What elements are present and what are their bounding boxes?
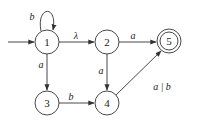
state-2: 2 — [95, 30, 119, 54]
edge-label-1-1: b — [30, 11, 35, 22]
svg-text:3: 3 — [44, 97, 50, 109]
svg-text:5: 5 — [166, 35, 172, 47]
svg-text:2: 2 — [104, 36, 110, 48]
automaton-diagram: b λ a a a b a | b 1 2 3 4 5 — [0, 0, 214, 124]
state-1: 1 — [35, 30, 59, 54]
edge-label-1-3: a — [39, 59, 44, 70]
edge-label-2-5: a — [131, 30, 136, 41]
svg-text:1: 1 — [44, 36, 50, 48]
svg-text:4: 4 — [104, 97, 110, 109]
edge-label-1-2: λ — [73, 30, 79, 41]
state-5-accepting: 5 — [157, 29, 181, 53]
state-4: 4 — [95, 91, 119, 115]
edge-label-2-4: a — [99, 65, 104, 76]
edge-1-1 — [40, 11, 53, 31]
state-3: 3 — [35, 91, 59, 115]
edge-label-4-5: a | b — [153, 81, 171, 92]
edge-label-3-4: b — [69, 91, 74, 102]
